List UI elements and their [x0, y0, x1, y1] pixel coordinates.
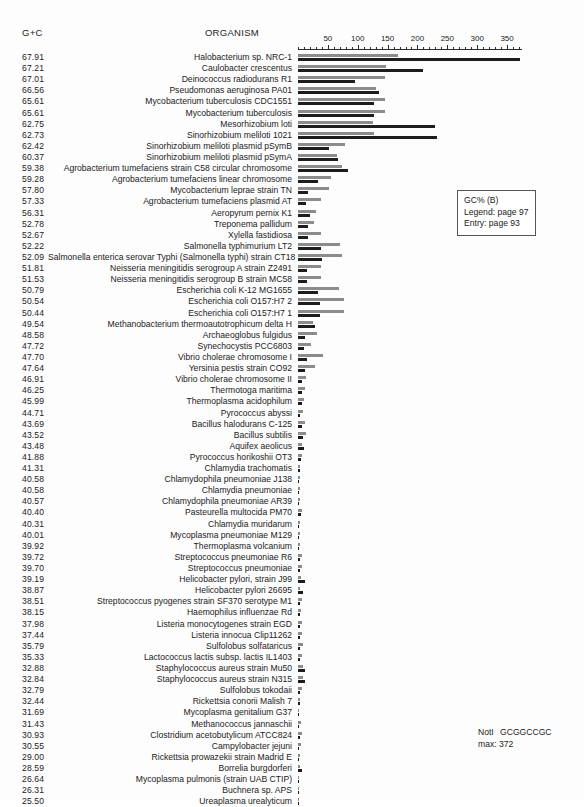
- bar-gray: [298, 343, 311, 346]
- axis-tick-minor: [441, 47, 442, 49]
- chart-row: 65.61Mycobacterium tuberculosis: [0, 108, 584, 119]
- bar-black: [298, 102, 374, 105]
- axis-tick-minor: [423, 47, 424, 49]
- gc-column-header: G+C: [22, 27, 43, 38]
- organism-name: Chlamydia trachomatis: [48, 463, 292, 473]
- bar-black: [298, 269, 307, 272]
- bar-black: [298, 513, 301, 516]
- bar-black: [298, 436, 303, 439]
- bar-black: [298, 647, 300, 650]
- organism-name: Agrobacterium tumefaciens strain C58 cir…: [48, 163, 292, 173]
- organism-name: Sinorhizobium meliloti plasmid pSymA: [48, 152, 292, 162]
- bar-black: [298, 758, 299, 761]
- organism-name: Campylobacter jejuni: [48, 741, 292, 751]
- gc-value: 25.50: [22, 796, 44, 806]
- bar-gray: [298, 776, 299, 779]
- bar-black: [298, 58, 520, 61]
- chart-row: 46.25Thermotoga maritima: [0, 385, 584, 396]
- organism-name: Methanococcus jannaschii: [48, 719, 292, 729]
- organism-name: Mycoplasma genitalium G37: [48, 707, 292, 717]
- bar-gray: [298, 576, 301, 579]
- axis-tick-minor: [316, 47, 317, 49]
- bar-black: [298, 202, 306, 205]
- bar-black: [298, 191, 308, 194]
- bar-black: [298, 780, 299, 783]
- bar-gray: [298, 698, 300, 701]
- bar-black: [298, 558, 300, 561]
- organism-name: Bacillus halodurans C-125: [48, 419, 292, 429]
- gc-value: 43.69: [22, 419, 44, 429]
- chart-row: 67.21Caulobacter crescentus: [0, 63, 584, 74]
- bar-gray: [298, 754, 300, 757]
- enzyme-name: NotI: [478, 726, 500, 738]
- bar-black: [298, 380, 302, 383]
- gc-value: 38.51: [22, 596, 44, 606]
- chart-row: 35.33Lactococcus lactis subsp. lactis IL…: [0, 652, 584, 663]
- max-value-label: max: 372: [478, 738, 552, 750]
- gc-value: 37.98: [22, 619, 44, 629]
- organism-name: Halobacterium sp. NRC-1: [48, 52, 292, 62]
- legend-page-ref: Legend: page 97: [464, 207, 529, 219]
- bar-black: [298, 502, 299, 505]
- chart-row: 51.53Neisseria meningitidis serogroup B …: [0, 274, 584, 285]
- gc-value: 62.73: [22, 130, 44, 140]
- bar-black: [298, 214, 310, 217]
- axis-tick-minor: [370, 47, 371, 49]
- bar-black: [298, 636, 300, 639]
- bar-gray: [298, 443, 302, 446]
- gc-value: 49.54: [22, 319, 44, 329]
- organism-name: Listeria innocua Clip11262: [48, 630, 292, 640]
- gc-value: 32.84: [22, 674, 44, 684]
- axis-tick-minor: [298, 47, 299, 49]
- organism-name: Staphylococcus aureus strain Mu50: [48, 663, 292, 673]
- bar-black: [298, 291, 318, 294]
- chart-row: 43.69Bacillus halodurans C-125: [0, 419, 584, 430]
- axis-tick-label: 200: [411, 34, 424, 43]
- organism-name: Streptococcus pneumoniae: [48, 563, 292, 573]
- bar-black: [298, 802, 299, 805]
- chart-row: 43.52Bacillus subtilis: [0, 430, 584, 441]
- bar-black: [298, 336, 305, 339]
- bar-gray: [298, 565, 302, 568]
- organism-name: Ureaplasma urealyticum: [48, 796, 292, 806]
- chart-row: 49.54Methanobacterium thermoautotrophicu…: [0, 319, 584, 330]
- bar-gray: [298, 410, 303, 413]
- chart-row: 45.99Thermoplasma acidophilum: [0, 396, 584, 407]
- bar-gray: [298, 721, 301, 724]
- bar-black: [298, 791, 299, 794]
- organism-name: Mycoplasma pulmonis (strain UAB CTIP): [48, 774, 292, 784]
- chart-row: 43.48Aquifex aeolicus: [0, 441, 584, 452]
- axis-tick-minor: [435, 47, 436, 49]
- bar-gray: [298, 143, 345, 146]
- bar-black: [298, 347, 304, 350]
- chart-row: 38.87Helicobacter pylori 26695: [0, 585, 584, 596]
- bar-black: [298, 302, 320, 305]
- enzyme-note: NotIGCGGCCGC max: 372: [478, 726, 552, 750]
- bar-gray: [298, 98, 385, 101]
- chart-row: 40.58Chlamydophila pneumoniae J138: [0, 474, 584, 485]
- gc-value: 31.69: [22, 707, 44, 717]
- organism-name: Rickettsia conorii Malish 7: [48, 696, 292, 706]
- axis-tick-label: 250: [441, 34, 454, 43]
- chart-row: 40.57Chlamydophila pneumoniae AR39: [0, 496, 584, 507]
- gc-value: 66.56: [22, 85, 44, 95]
- axis-tick-label: 50: [323, 34, 332, 43]
- bar-black: [298, 591, 303, 594]
- bar-gray: [298, 332, 317, 335]
- organism-name: Methanobacterium thermoautotrophicum del…: [48, 319, 292, 329]
- organism-name: Mycobacterium leprae strain TN: [48, 185, 292, 195]
- bar-black: [298, 236, 308, 239]
- gc-value: 52.22: [22, 241, 44, 251]
- organism-name: Lactococcus lactis subsp. lactis IL1403: [48, 652, 292, 662]
- bar-gray: [298, 509, 302, 512]
- chart-row: 67.01Deinococcus radiodurans R1: [0, 74, 584, 85]
- bar-black: [298, 258, 322, 261]
- gc-value: 52.67: [22, 230, 44, 240]
- bar-black: [298, 125, 435, 128]
- axis-tick-major: [507, 45, 508, 49]
- organism-name: Mesorhizobium loti: [48, 119, 292, 129]
- chart-row: 47.70Vibrio cholerae chromosome I: [0, 352, 584, 363]
- gc-value: 32.44: [22, 696, 44, 706]
- gc-value: 35.33: [22, 652, 44, 662]
- organism-name: Borrelia burgdorferi: [48, 763, 292, 773]
